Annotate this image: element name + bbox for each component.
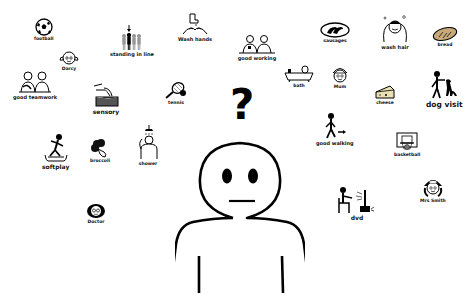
symbol-bath[interactable]: bath <box>283 65 315 89</box>
doctor-face-icon <box>86 203 106 219</box>
confused-person-icon <box>175 90 305 295</box>
symbol-label: football <box>34 37 54 42</box>
symbol-label: Wash hands <box>178 37 212 42</box>
symbol-dvd[interactable]: dvd <box>338 186 376 221</box>
symbol-basketball[interactable]: basketball <box>394 132 420 158</box>
symbol-good-teamwork[interactable]: good teamwork <box>13 70 57 100</box>
two-people-teamwork-icon <box>17 70 53 94</box>
person-watching-tv-icon <box>338 186 376 214</box>
symbol-standing-in-line[interactable]: standing in line <box>110 25 154 57</box>
symbol-label: basketball <box>394 153 420 158</box>
symbol-label: good walking <box>316 141 354 146</box>
symbol-softplay[interactable]: softplay <box>42 133 69 170</box>
symbol-mum[interactable]: Mum <box>331 66 349 90</box>
two-people-working-icon <box>237 33 277 55</box>
people-queue-icon <box>120 25 144 51</box>
symbol-label: dog visit <box>426 101 463 109</box>
cheese-wedge-icon <box>374 84 396 100</box>
symbol-cheese[interactable]: cheese <box>374 84 396 106</box>
football-icon <box>35 18 53 36</box>
symbol-bread[interactable]: bread <box>432 26 458 48</box>
symbol-label: bread <box>438 43 453 48</box>
symbol-label: wash hair <box>381 45 408 50</box>
symbol-mrs-smith[interactable]: Mrs Smith <box>420 176 446 204</box>
tap-hands-icon <box>181 12 209 36</box>
symbol-label: shower <box>139 162 157 167</box>
symbol-label: standing in line <box>110 52 154 57</box>
child-jumping-on-mat-icon <box>43 133 69 163</box>
symbol-wash-hair[interactable]: wash hair <box>380 14 410 50</box>
symbol-label: softplay <box>42 164 69 170</box>
symbol-label: bath <box>293 84 305 89</box>
symbol-darcy[interactable]: Darcy <box>58 50 80 72</box>
bread-loaf-icon <box>432 26 458 42</box>
symbol-shower[interactable]: shower <box>136 125 160 167</box>
symbol-sensory[interactable]: sensory <box>92 82 120 115</box>
symbol-broccoli[interactable]: broccoli <box>90 138 110 164</box>
person-with-dog-icon <box>429 70 459 100</box>
sausages-plate-icon <box>320 22 350 38</box>
girl-face-icon <box>58 50 80 66</box>
hand-in-tray-icon <box>92 82 120 108</box>
symbol-label: sensory <box>93 109 119 115</box>
symbol-label: Mrs Smith <box>420 199 446 204</box>
woman-with-hat-icon <box>422 176 444 198</box>
symbol-sausages[interactable]: sausages <box>320 22 350 44</box>
symbol-label: cheese <box>376 101 394 106</box>
symbol-dog-visit[interactable]: dog visit <box>426 70 463 109</box>
symbol-doctor[interactable]: Doctor <box>86 203 106 225</box>
person-showering-icon <box>136 125 160 161</box>
symbol-label: Darcy <box>62 67 77 72</box>
symbol-label: broccoli <box>90 159 110 164</box>
symbol-wash-hands[interactable]: Wash hands <box>178 12 212 42</box>
symbol-good-walking[interactable]: good walking <box>316 112 354 146</box>
symbol-football[interactable]: football <box>34 18 54 42</box>
symbol-label: good teamwork <box>13 95 57 100</box>
symbol-label: Mum <box>334 85 346 90</box>
walking-person-icon <box>321 112 349 140</box>
symbol-label: Doctor <box>88 220 105 225</box>
broccoli-icon <box>90 138 110 158</box>
symbol-label: good working <box>238 56 276 61</box>
woman-face-icon <box>331 66 349 84</box>
symbol-good-working[interactable]: good working <box>237 33 277 61</box>
symbol-label: dvd <box>351 215 364 221</box>
bathtub-icon <box>283 65 315 83</box>
washing-hair-icon <box>380 14 410 44</box>
basketball-hoop-icon <box>395 132 419 152</box>
symbol-label: sausages <box>323 39 347 44</box>
